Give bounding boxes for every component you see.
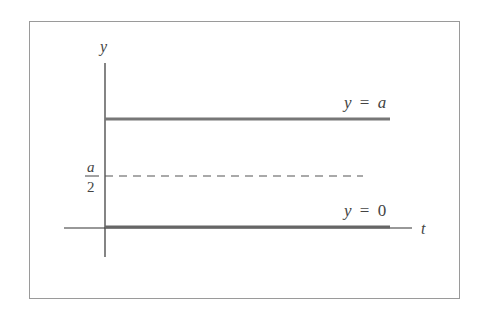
- label-y-equals-0: y = 0: [342, 201, 386, 220]
- label-y-equals-a: y = a: [342, 93, 386, 112]
- y-axis-label: y: [98, 38, 108, 56]
- t-axis-label: t: [421, 220, 426, 237]
- tick-a-half-denominator: 2: [87, 179, 95, 195]
- tick-a-half-numerator: a: [87, 159, 95, 175]
- equilibrium-diagram: y t y = a a 2 y = 0: [0, 0, 487, 315]
